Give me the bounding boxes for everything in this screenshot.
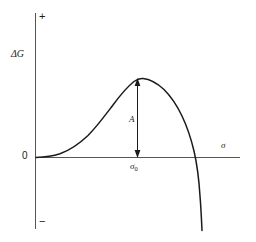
sigma-zero-label: σ0	[130, 162, 138, 171]
activation-energy-arrow-head-down	[135, 150, 141, 158]
y-axis-negative-sign: −	[39, 216, 45, 227]
origin-label: 0	[22, 151, 28, 161]
free-energy-curve	[36, 78, 202, 230]
y-axis-positive-sign: +	[39, 11, 45, 22]
plot-canvas	[0, 0, 256, 242]
activation-energy-label: A	[129, 115, 135, 124]
y-axis-label: ΔG	[11, 49, 24, 59]
sigma-zero-subscript: 0	[134, 165, 137, 172]
x-axis-label: σ	[221, 141, 225, 150]
free-energy-nucleation-figure: + − ΔG 0 σ σ0 A	[0, 0, 256, 242]
